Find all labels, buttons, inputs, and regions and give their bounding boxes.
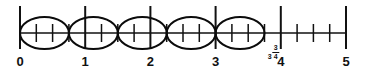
annotation-numerator: 3 xyxy=(274,44,278,51)
number-line-graphic xyxy=(0,0,370,75)
axis-label-0: 0 xyxy=(16,55,23,68)
annotation-whole-number: 3 xyxy=(268,53,272,61)
axis-label-5: 5 xyxy=(342,55,349,68)
annotation-three-and-three-quarters: 3 3 4 xyxy=(268,44,279,61)
number-line-figure: 012345 3 3 4 xyxy=(0,0,370,75)
axis-label-2: 2 xyxy=(147,55,154,68)
axis-label-1: 1 xyxy=(82,55,89,68)
annotation-fraction: 3 4 xyxy=(272,44,279,61)
axis-label-3: 3 xyxy=(212,55,219,68)
annotation-denominator: 4 xyxy=(274,53,278,60)
